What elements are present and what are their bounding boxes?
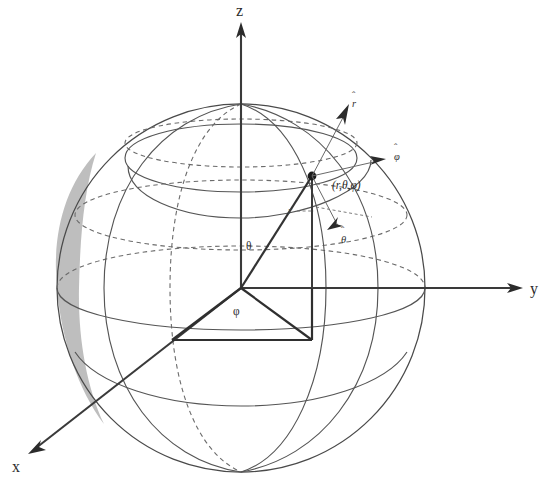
shaded-lune bbox=[56, 153, 104, 424]
projection-base-to-x-axis bbox=[172, 288, 241, 340]
equator-front-solid bbox=[57, 288, 425, 330]
figure-canvas: z y x r θ φ (r,θ,φ) r ˆ φ ˆ θ ˆ bbox=[0, 0, 551, 482]
radius-label: r bbox=[288, 205, 292, 216]
r-hat-arrowhead bbox=[336, 104, 349, 125]
x-axis-label: x bbox=[12, 458, 20, 475]
phi-angle-label: φ bbox=[233, 305, 240, 318]
projection-line-origin-to-foot bbox=[241, 288, 312, 340]
point-coordinate-label: (r,θ,φ) bbox=[332, 179, 361, 192]
y-axis-label: y bbox=[530, 280, 538, 298]
spherical-coordinates-figure: z y x r θ φ (r,θ,φ) r ˆ φ ˆ θ ˆ bbox=[0, 0, 551, 482]
z-axis-label: z bbox=[236, 2, 243, 19]
radius-vector-line bbox=[241, 176, 312, 288]
theta-angle-label: θ bbox=[246, 240, 252, 252]
phi-hat-arrowhead bbox=[370, 156, 386, 165]
meridian-back-dashed bbox=[170, 104, 241, 472]
